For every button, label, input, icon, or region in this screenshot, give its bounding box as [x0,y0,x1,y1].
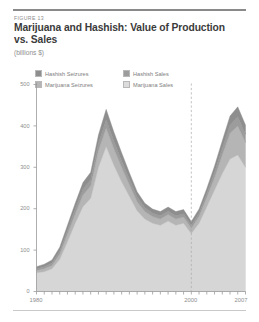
area-chart-plot [0,0,259,322]
y-axis-tick-label: 200 [14,205,30,211]
x-axis-tick-label: 2007 [235,297,248,303]
bottom-rule [13,310,246,311]
x-axis-tick-label: 2000 [184,297,197,303]
y-axis-tick-label: 400 [14,123,30,129]
y-axis-tick-label: 0 [14,288,30,294]
x-axis-tick-label: 1980 [30,297,43,303]
y-axis-tick-label: 500 [14,81,30,87]
figure-container: FIGURE 13 Marijuana and Hashish: Value o… [0,0,259,322]
y-axis-tick-label: 100 [14,247,30,253]
y-axis-tick-label: 300 [14,164,30,170]
